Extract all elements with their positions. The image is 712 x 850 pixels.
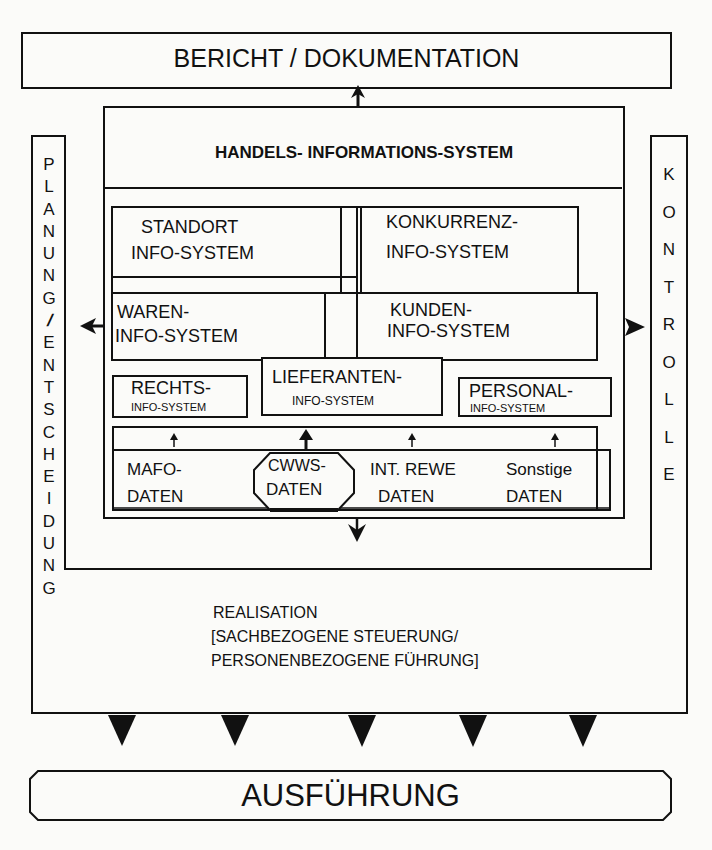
planung-entscheidung-label: P L A N U N G / E N T S C H E I D U N G (40, 156, 58, 602)
mafo-line1: MAFO- (127, 461, 182, 478)
arrow-down-realisation-icon (348, 518, 366, 542)
realisation-line3: PERSONENBEZOGENE FÜHRUNG] (211, 653, 479, 669)
mafo-line2: DATEN (127, 488, 183, 505)
arrow-up-intrewe-icon (408, 433, 416, 447)
kunden-line2: INFO-SYSTEM (387, 322, 510, 340)
personal-line1: PERSONAL- (469, 382, 573, 400)
bericht-label: BERICHT / DOKUMENTATION (0, 46, 693, 71)
rechts-line2: INFO-SYSTEM (131, 402, 206, 413)
intrewe-line1: INT. REWE (370, 461, 456, 478)
arrow-down-ausfuehrung-5-icon (569, 715, 597, 747)
waren-line2: INFO-SYSTEM (115, 327, 238, 345)
waren-line1: WAREN- (117, 303, 189, 321)
cwws-line1: CWWS- (268, 458, 326, 474)
arrow-down-ausfuehrung-2-icon (221, 715, 249, 746)
rechts-line1: RECHTS- (131, 379, 211, 397)
arrow-up-cwws-icon (299, 429, 313, 450)
outer-u-frame (32, 136, 687, 713)
konkurrenz-line2: INFO-SYSTEM (386, 243, 509, 261)
sonstige-line2: DATEN (506, 488, 562, 505)
standort-line1: STANDORT (141, 218, 238, 236)
realisation-line2: [SACHBEZOGENE STEUERUNG/ (211, 629, 458, 645)
his-title: HANDELS- INFORMATIONS-SYSTEM (104, 144, 624, 161)
arrow-left-planung-icon (80, 318, 104, 334)
personal-line2: INFO-SYSTEM (470, 403, 545, 414)
lieferanten-line2: INFO-SYSTEM (292, 395, 374, 407)
kunden-line1: KUNDEN- (390, 301, 472, 319)
arrow-down-ausfuehrung-4-icon (459, 715, 487, 747)
konkurrenz-line1: KONKURRENZ- (386, 213, 518, 231)
lieferanten-line1: LIEFERANTEN- (272, 368, 402, 386)
arrow-down-ausfuehrung-3-icon (348, 715, 376, 747)
arrow-up-mafo-icon (170, 433, 178, 447)
intrewe-line2: DATEN (378, 488, 434, 505)
standort-line2: INFO-SYSTEM (131, 244, 254, 262)
cwws-line2: DATEN (266, 481, 322, 498)
sonstige-line1: Sonstige (506, 461, 572, 478)
arrow-right-kontrolle-icon (625, 318, 645, 336)
kontrolle-label: K O N T R O L L E (660, 166, 678, 504)
diagram-frame (0, 0, 712, 850)
ausfuehrung-label: AUSFÜHRUNG (30, 780, 671, 811)
arrow-down-ausfuehrung-1-icon (108, 715, 136, 746)
arrow-up-sonstige-icon (551, 433, 559, 447)
realisation-line1: REALISATION (213, 605, 318, 621)
